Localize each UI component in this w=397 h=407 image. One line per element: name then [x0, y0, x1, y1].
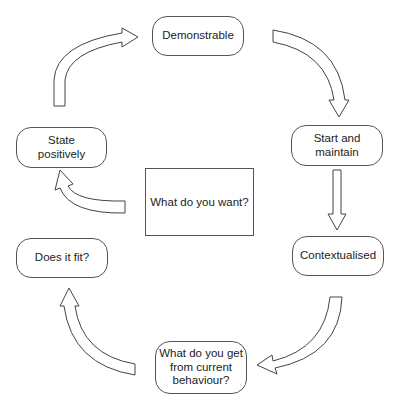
node-label: Does it fit? — [35, 251, 89, 265]
node-label: State positively — [38, 134, 85, 161]
node-label: What do you get from current behaviour? — [159, 347, 243, 388]
center-box-what-do-you-want: What do you want? — [145, 168, 254, 236]
arrow-center-to-state-icon — [55, 170, 125, 213]
node-does-it-fit: Does it fit? — [16, 238, 108, 278]
node-demonstrable: Demonstrable — [152, 16, 244, 56]
node-state-positively: State positively — [16, 127, 107, 168]
node-label: Demonstrable — [162, 29, 234, 43]
center-label: What do you want? — [150, 195, 248, 209]
node-start-and-maintain: Start and maintain — [291, 125, 383, 166]
arrow-state-to-demonstrable-icon — [54, 28, 138, 106]
arrow-demonstrable-to-start-icon — [273, 30, 349, 117]
node-contextualised: Contextualised — [292, 236, 384, 276]
arrow-start-to-contextualised-icon — [328, 170, 346, 230]
node-what-do-you-get: What do you get from current behaviour? — [155, 341, 247, 394]
node-label: Start and maintain — [314, 132, 361, 159]
arrow-whatget-to-doesitfit-icon — [60, 288, 135, 375]
node-label: Contextualised — [300, 249, 376, 263]
arrow-contextualised-to-whatget-icon — [257, 297, 342, 374]
